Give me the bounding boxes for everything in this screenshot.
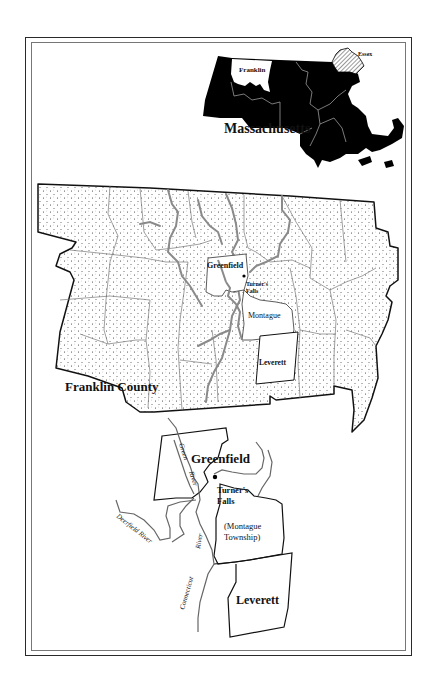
detail-turners-falls-line2: Falls bbox=[217, 496, 235, 506]
turners-falls-label-line2: Falls bbox=[246, 288, 259, 294]
deerfield-river-label: Deerfield River bbox=[114, 512, 154, 546]
massachusetts-title: Massachusetts bbox=[224, 121, 311, 136]
connecticut-river-label-line2: River bbox=[194, 533, 205, 551]
detail-montague-line2: Township) bbox=[224, 532, 260, 542]
green-river-label-line2: River bbox=[187, 469, 200, 487]
detail-montague-line1: (Montague bbox=[224, 521, 262, 531]
map-figure: Franklin Essex Massachusetts bbox=[0, 0, 435, 689]
turners-falls-marker bbox=[242, 274, 245, 277]
detail-turners-falls-line1: Turner's bbox=[217, 485, 249, 495]
detail-greenfield-label: Greenfield bbox=[191, 451, 251, 466]
detail-map: Greenfield Turner's Falls (Montague Town… bbox=[114, 418, 292, 637]
detail-leverett-label: Leverett bbox=[236, 593, 279, 607]
turners-falls-dot bbox=[213, 475, 217, 479]
franklin-county-map: Greenfield Turner's Falls Montague Lever… bbox=[38, 184, 398, 432]
connecticut-river-label-line1: Connecticut bbox=[178, 575, 195, 611]
north-river bbox=[172, 498, 194, 542]
turners-falls-label-line1: Turner's bbox=[246, 281, 269, 287]
massachusetts-map: Franklin Essex Massachusetts bbox=[203, 48, 404, 168]
greenfield-label: Greenfield bbox=[207, 261, 244, 270]
leverett-label: Leverett bbox=[259, 358, 286, 367]
nantucket bbox=[384, 160, 394, 168]
franklin-label: Franklin bbox=[239, 66, 266, 74]
green-river-label-line1: Green bbox=[177, 442, 190, 461]
montague-label: Montague bbox=[248, 311, 281, 320]
franklin-county-title: Franklin County bbox=[65, 379, 159, 394]
marthas-vineyard bbox=[358, 156, 372, 166]
essex-label: Essex bbox=[358, 51, 372, 57]
